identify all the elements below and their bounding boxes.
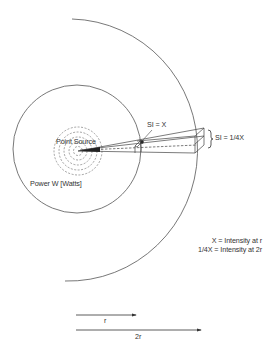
r-arrow-label: r (104, 316, 106, 325)
si-far-label: SI = 1/4X (215, 133, 244, 142)
inverse-square-diagram (0, 0, 275, 355)
far-area-element (137, 128, 204, 153)
legend-line-2: 1/4X = Intensity at 2r (198, 245, 262, 254)
point-source-label: Point Source (56, 137, 96, 146)
legend-line-1: X = Intensity at r (212, 236, 262, 245)
inner-sphere-circle (13, 85, 141, 213)
si-near-pointer (142, 130, 152, 141)
power-label: Power W [Watts] (30, 179, 82, 188)
si-near-label: SI = X (147, 120, 166, 129)
near-area-element (135, 140, 144, 153)
brace-icon (208, 130, 213, 148)
2r-arrow-label: 2r (135, 332, 141, 341)
